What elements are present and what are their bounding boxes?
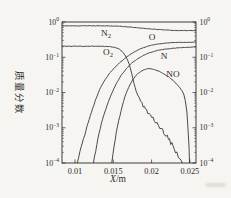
y-axis-title: 质量分数 [15,64,27,122]
curve-label-N: N [161,51,168,61]
svg-text:10−3: 10−3 [200,122,214,132]
svg-text:10−1: 10−1 [200,52,214,62]
svg-text:100: 100 [200,16,211,26]
species-mass-fraction-figure: 10010010−110−110−210−210−310−310−410−40.… [0,0,231,198]
x-axis-unit: /m [116,174,126,184]
chart-canvas: 10010010−110−110−210−210−310−310−410−40.… [0,0,231,198]
svg-text:0.025: 0.025 [181,167,200,176]
scan-artifact [205,183,226,187]
svg-text:10−4: 10−4 [45,157,59,167]
curve-label-NO: NO [166,69,180,79]
curve-label-N2: N2 [101,28,111,39]
x-axis-title: X/m [92,174,144,186]
svg-text:10−2: 10−2 [45,87,59,97]
svg-text:10−4: 10−4 [200,157,214,167]
svg-text:10−1: 10−1 [45,52,59,62]
svg-text:10−3: 10−3 [45,122,59,132]
svg-text:10−2: 10−2 [200,87,214,97]
svg-text:0.02: 0.02 [144,167,159,176]
curve-label-O2: O2 [103,47,113,58]
svg-text:0.01: 0.01 [68,167,83,176]
curve-label-O: O [149,32,156,42]
svg-text:100: 100 [48,16,59,26]
